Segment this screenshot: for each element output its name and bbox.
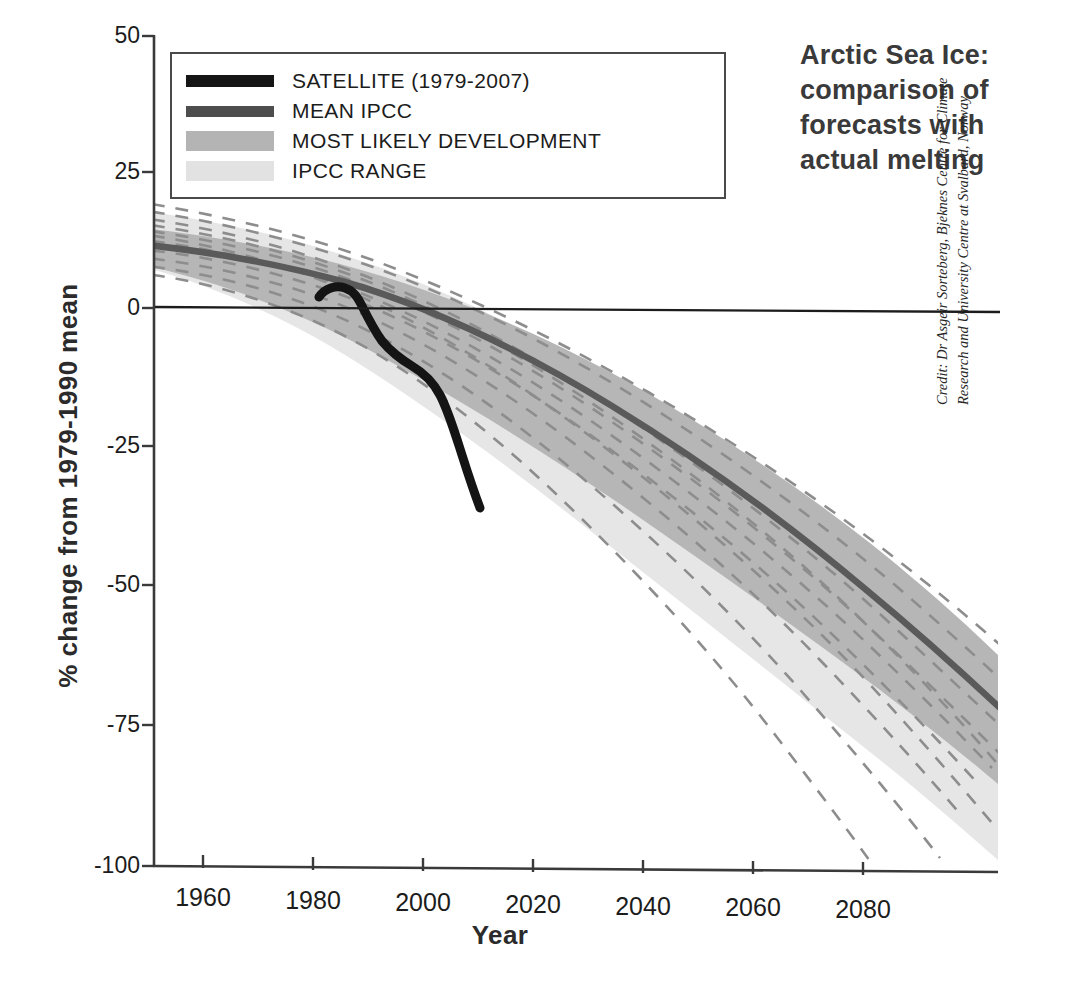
title-line-3: forecasts with [800,108,1040,143]
x-tick-label: 2040 [588,892,698,921]
legend-swatch-mean-ipcc [186,106,274,117]
x-tick-label: 2060 [698,893,808,922]
y-tick-label: -25 [78,432,140,459]
legend-label-ipcc-range: IPCC RANGE [292,159,427,183]
x-tick-label: 2020 [478,890,588,919]
legend-item-most-likely-development[interactable]: MOST LIKELY DEVELOPMENT [186,126,724,156]
y-tick-label: 25 [78,158,140,185]
page-title: Arctic Sea Ice: comparison of forecasts … [800,38,1040,178]
title-line-1: Arctic Sea Ice: [800,38,1040,73]
y-tick-label: -100 [78,852,140,879]
y-tick-label: 0 [78,294,140,321]
credit-line-1: Credit: Dr Asgeir Sorteberg, Bjeknes Cen… [932,0,953,405]
x-axis-title: Year [400,920,600,951]
title-line-2: comparison of [800,73,1040,108]
legend-label-most-likely-development: MOST LIKELY DEVELOPMENT [292,129,601,153]
x-tick-label: 2000 [368,888,478,917]
legend-swatch-most-likely-development [186,131,274,151]
credit-text: Credit: Dr Asgeir Sorteberg, Bjeknes Cen… [932,0,974,405]
legend-item-ipcc-range[interactable]: IPCC RANGE [186,156,724,186]
chart-legend: SATELLITE (1979-2007) MEAN IPCC MOST LIK… [170,52,726,199]
y-axis-ticks [142,36,154,866]
x-tick-label: 2080 [808,895,918,924]
x-tick-label: 1960 [148,883,258,912]
legend-swatch-ipcc-range [186,161,274,181]
title-line-4: actual melting [800,143,1040,178]
x-axis-spine [153,866,998,872]
x-tick-label: 1980 [258,886,368,915]
legend-item-mean-ipcc[interactable]: MEAN IPCC [186,96,724,126]
legend-item-satellite[interactable]: SATELLITE (1979-2007) [186,66,724,96]
y-tick-label: -75 [78,711,140,738]
y-tick-label: 50 [78,22,140,49]
chart-figure: 50 25 0 -25 -50 -75 -100 1960 1980 2000 … [0,0,1080,994]
credit-line-2: Research and University Centre at Svalba… [953,0,974,405]
y-tick-label: -50 [78,571,140,598]
legend-label-satellite: SATELLITE (1979-2007) [292,69,530,93]
y-tick-labels: 50 25 0 -25 -50 -75 -100 [78,0,140,994]
legend-swatch-satellite [186,75,274,87]
y-axis-title: % change from 1979-1990 mean [53,156,84,816]
legend-label-mean-ipcc: MEAN IPCC [292,99,412,123]
